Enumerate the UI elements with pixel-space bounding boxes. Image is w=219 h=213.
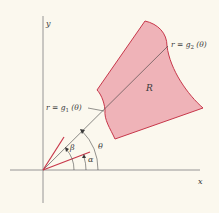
diagram-graphics <box>0 0 219 213</box>
alpha-arc <box>84 157 86 170</box>
region-r <box>97 21 203 139</box>
alpha-ray <box>43 152 90 170</box>
polar-region-diagram: y x R r = g1 (θ) r = g2 (θ) θ β α <box>0 0 219 213</box>
x-axis-label: x <box>198 178 203 186</box>
region-label: R <box>146 84 153 93</box>
outer-curve-subscript: 2 <box>190 44 194 50</box>
inner-curve-prefix: r = g <box>46 103 65 112</box>
alpha-label: α <box>88 156 93 164</box>
outer-curve-suffix: (θ) <box>196 40 206 49</box>
g1-leader-line <box>88 108 104 111</box>
inner-curve-suffix: (θ) <box>71 103 81 112</box>
inner-curve-subscript: 1 <box>65 107 69 113</box>
theta-arc <box>82 131 98 170</box>
beta-ray <box>43 137 64 170</box>
outer-curve-prefix: r = g <box>171 40 190 49</box>
outer-curve-label: r = g2 (θ) <box>171 41 207 50</box>
beta-arrowhead <box>65 147 69 152</box>
beta-label: β <box>70 144 75 152</box>
inner-curve-label: r = g1 (θ) <box>46 104 82 113</box>
theta-label: θ <box>98 143 103 151</box>
y-axis-label: y <box>46 20 51 28</box>
